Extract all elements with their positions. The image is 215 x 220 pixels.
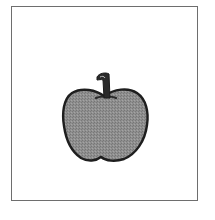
apple-body [63,89,147,160]
apple-icon [0,0,215,220]
